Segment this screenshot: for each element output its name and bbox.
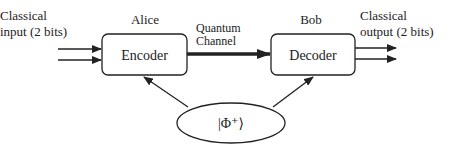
quantum-channel-label-line2: Channel [196, 34, 237, 48]
alice-label: Alice [131, 12, 159, 27]
classical-input-label-line1: Classical [0, 8, 47, 23]
quantum-channel-label-line1: Quantum [196, 21, 241, 35]
encoder-label: Encoder [121, 48, 168, 63]
entanglement-to-decoder-arrow [273, 77, 313, 107]
bob-label: Bob [300, 12, 322, 27]
superdense-coding-diagram: Classical input (2 bits) Alice Encoder Q… [0, 0, 462, 146]
decoder-label: Decoder [289, 48, 337, 63]
entangled-state-label: |Φ⁺⟩ [218, 116, 244, 131]
classical-output-label-line2: output (2 bits) [360, 24, 434, 39]
entanglement-to-encoder-arrow [144, 77, 188, 107]
classical-output-label-line1: Classical [360, 8, 407, 23]
classical-input-label-line2: input (2 bits) [0, 24, 67, 39]
